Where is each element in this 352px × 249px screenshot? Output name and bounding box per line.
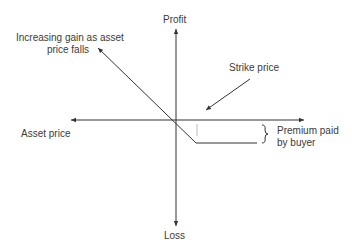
gain-annotation-line1: Increasing gain as asset — [16, 32, 120, 44]
loss-label: Loss — [164, 230, 185, 242]
asset-price-label: Asset price — [21, 128, 70, 140]
premium-annotation: Premium paid by buyer — [277, 125, 339, 149]
premium-line2: by buyer — [277, 137, 339, 149]
payoff-gain-line — [98, 48, 196, 143]
gain-annotation: Increasing gain as asset price falls — [16, 32, 120, 56]
premium-brace-icon — [262, 125, 268, 143]
profit-label: Profit — [163, 14, 186, 26]
gain-annotation-line2: price falls — [16, 44, 120, 56]
strike-arrow — [206, 79, 250, 110]
premium-line1: Premium paid — [277, 125, 339, 137]
strike-price-label: Strike price — [229, 62, 279, 74]
